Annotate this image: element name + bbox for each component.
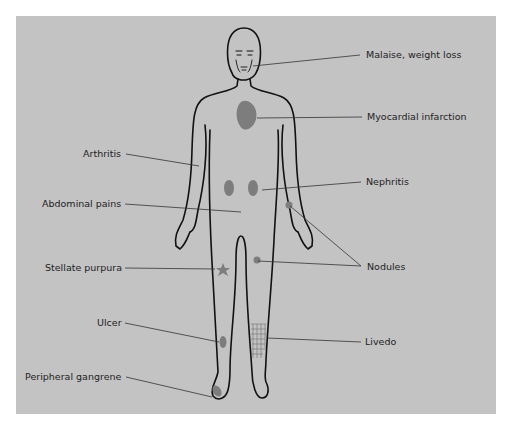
label-myocardial-infarction: Myocardial infarction <box>367 111 467 123</box>
thigh-nodule <box>254 257 261 264</box>
head-outline <box>228 28 261 80</box>
leader-arthritis <box>126 154 199 166</box>
right-kidney <box>248 180 258 196</box>
label-abdominal-pains: Abdominal pains <box>42 198 121 210</box>
leader-stellate <box>125 268 215 269</box>
leader-nodules-2 <box>258 261 361 266</box>
label-nodules: Nodules <box>367 261 405 273</box>
label-arthritis: Arthritis <box>83 148 121 160</box>
ulcer-lesion <box>220 336 227 348</box>
label-ulcer: Ulcer <box>97 317 122 329</box>
leader-ulcer <box>125 323 219 342</box>
leader-malaise <box>253 55 360 66</box>
heart-lesion <box>237 101 257 130</box>
leader-livedo <box>267 338 361 342</box>
label-malaise: Malaise, weight loss <box>366 49 461 61</box>
face-wrinkles <box>236 60 252 72</box>
label-peripheral-gangrene: Peripheral gangrene <box>25 371 121 383</box>
body-figure <box>0 0 509 429</box>
left-kidney <box>224 180 234 196</box>
leader-mi <box>257 117 362 118</box>
eyes <box>236 51 253 55</box>
label-stellate-purpura: Stellate purpura <box>45 262 122 274</box>
stellate-purpura-lesion <box>216 263 230 276</box>
livedo-mesh <box>251 324 266 358</box>
leader-gangrene <box>126 377 212 397</box>
leader-nodules-1 <box>290 206 361 266</box>
right-body-outline <box>250 79 313 249</box>
legs-outline <box>209 130 278 399</box>
label-livedo: Livedo <box>365 336 396 348</box>
leader-abdominal <box>125 204 241 212</box>
label-nephritis: Nephritis <box>366 176 409 188</box>
